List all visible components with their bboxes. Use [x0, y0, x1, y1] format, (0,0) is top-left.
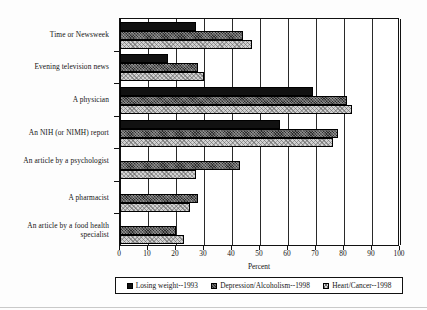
bar: [120, 129, 338, 138]
bar: [120, 40, 252, 49]
category-label: A pharmacist: [0, 193, 109, 202]
legend-item[interactable]: Depression/Alcoholism--1998: [211, 281, 310, 290]
bar-group: [120, 152, 398, 179]
bar-group: [120, 185, 398, 212]
legend-label: Heart/Cancer--1998: [332, 281, 391, 290]
plot-area: [119, 18, 399, 246]
gridline-100: [400, 19, 401, 245]
bar: [120, 63, 198, 72]
chart-legend: Losing weight--1993Depression/Alcoholism…: [115, 277, 403, 294]
dark-crosshatch-swatch: [211, 283, 217, 289]
bar: [120, 22, 196, 31]
legend-item[interactable]: Heart/Cancer--1998: [323, 281, 391, 290]
bar: [120, 226, 176, 235]
bar: [120, 138, 333, 147]
category-label: Time or Newsweek: [0, 30, 109, 39]
light-crosshatch-swatch: [323, 283, 329, 289]
value-tick-label-50: 50: [247, 249, 271, 258]
bar: [120, 203, 190, 212]
value-tick-label-60: 60: [275, 249, 299, 258]
value-axis-tick-labels: 0102030405060708090100: [119, 249, 399, 261]
solid-black-swatch: [127, 283, 133, 289]
legend-label: Losing weight--1993: [136, 281, 198, 290]
bar-group: [120, 22, 398, 49]
page-edge-line: [0, 307, 427, 308]
value-tick-label-70: 70: [303, 249, 327, 258]
bar: [120, 120, 280, 129]
bar: [120, 72, 204, 81]
category-axis-labels: Time or NewsweekEvening television newsA…: [0, 18, 115, 246]
bar: [120, 161, 240, 170]
category-tickmark: [114, 213, 119, 214]
value-tick-label-20: 20: [163, 249, 187, 258]
bar: [120, 235, 184, 244]
category-label: An article by a food health specialist: [0, 221, 109, 239]
bar: [120, 54, 168, 63]
bar-group: [120, 87, 398, 114]
category-tickmark: [114, 51, 119, 52]
legend-label: Depression/Alcoholism--1998: [220, 281, 310, 290]
bar: [120, 87, 313, 96]
value-tick-label-0: 0: [107, 249, 131, 258]
bar-groups: [120, 19, 398, 245]
bar: [120, 31, 243, 40]
bar-group: [120, 217, 398, 244]
category-label: A physician: [0, 95, 109, 104]
value-tick-label-100: 100: [387, 249, 411, 258]
value-tick-label-90: 90: [359, 249, 383, 258]
category-tickmark: [114, 148, 119, 149]
bar-chart-figure: Time or NewsweekEvening television newsA…: [0, 0, 427, 310]
category-label: An NIH (or NIMH) report: [0, 128, 109, 137]
bar: [120, 96, 347, 105]
category-tickmark: [114, 116, 119, 117]
x-axis-title: Percent: [119, 262, 399, 271]
value-tick-label-80: 80: [331, 249, 355, 258]
bar: [120, 194, 198, 203]
category-tickmark: [114, 181, 119, 182]
value-tick-label-10: 10: [135, 249, 159, 258]
value-tick-label-40: 40: [219, 249, 243, 258]
bar: [120, 170, 196, 179]
value-tick-label-30: 30: [191, 249, 215, 258]
category-label: An article by a psychologist: [0, 156, 109, 165]
category-tickmark: [114, 83, 119, 84]
category-label: Evening television news: [0, 62, 109, 71]
bar: [120, 105, 352, 114]
legend-item[interactable]: Losing weight--1993: [127, 281, 198, 290]
bar-group: [120, 54, 398, 81]
bar-group: [120, 120, 398, 147]
